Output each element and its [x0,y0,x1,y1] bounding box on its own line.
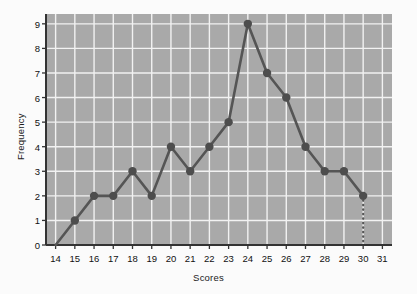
x-tick-label: 22 [204,253,215,264]
x-tick-label: 20 [166,253,177,264]
chart-canvas [0,0,417,294]
x-tick-label: 23 [223,253,234,264]
x-tick-label: 17 [108,253,119,264]
y-tick-label: 1 [22,215,40,226]
y-tick-label: 2 [22,190,40,201]
x-tick-label: 25 [262,253,273,264]
y-tick-label: 9 [22,18,40,29]
y-tick-label: 7 [22,67,40,78]
x-tick-label: 27 [300,253,311,264]
y-tick-label: 4 [22,141,40,152]
x-tick-label: 19 [146,253,157,264]
y-tick-label: 0 [22,240,40,251]
x-tick-label: 31 [377,253,388,264]
y-tick-label: 3 [22,166,40,177]
x-tick-label: 30 [358,253,369,264]
x-tick-label: 24 [243,253,254,264]
x-tick-label: 26 [281,253,292,264]
x-tick-label: 18 [127,253,138,264]
x-tick-label: 21 [185,253,196,264]
y-tick-label: 8 [22,43,40,54]
x-axis-title: Scores [0,272,417,283]
y-tick-label: 6 [22,92,40,103]
y-tick-label: 5 [22,117,40,128]
frequency-polygon-chart: Frequency Scores 0123456789 141516171819… [0,0,417,294]
x-tick-label: 28 [319,253,330,264]
x-tick-label: 16 [89,253,100,264]
x-tick-label: 14 [50,253,61,264]
x-tick-label: 15 [70,253,81,264]
x-tick-label: 29 [339,253,350,264]
